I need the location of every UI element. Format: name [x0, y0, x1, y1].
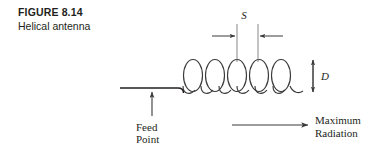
figure-container: FIGURE 8.14 Helical antenna — [0, 0, 387, 151]
radiation-label-line1: Maximum — [315, 114, 361, 126]
helix-tail — [290, 86, 303, 93]
helix-turn-2 — [206, 60, 225, 92]
radiation-label-line2: Radiation — [315, 127, 358, 139]
helix-coil — [183, 60, 303, 94]
feed-point-label-line1: Feed — [136, 121, 158, 133]
diameter-dimension: D — [313, 60, 329, 92]
helix-arc-2 — [219, 86, 231, 93]
feed-point-label-line2: Point — [136, 133, 159, 145]
spacing-label: S — [241, 9, 247, 21]
helix-turn-4 — [250, 60, 269, 92]
helix-turn-5 — [272, 60, 291, 92]
spacing-dimension: S — [212, 9, 283, 62]
diameter-label: D — [320, 70, 329, 82]
helix-turn-1 — [184, 60, 203, 92]
helical-antenna-diagram: Feed Point S D Maximum Radiation — [0, 0, 387, 151]
